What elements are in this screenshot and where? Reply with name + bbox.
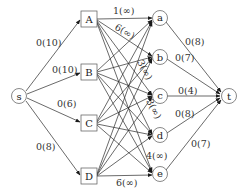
label-D-e: 6(∞): [116, 177, 137, 188]
node-t-label: t: [227, 91, 231, 102]
node-b: b: [153, 50, 168, 65]
middle-edges: [97, 18, 152, 176]
edge-s-D: [26, 101, 80, 175]
label-e-t: 0(7): [191, 138, 211, 149]
svg-text:A: A: [84, 14, 93, 25]
svg-text:a: a: [157, 12, 163, 23]
node-s-label: s: [16, 91, 21, 102]
label-A-a: 1(∞): [113, 5, 134, 16]
label-s-A: 0(10): [36, 37, 62, 48]
svg-text:d: d: [157, 130, 164, 141]
svg-text:B: B: [85, 67, 92, 78]
svg-text:b: b: [157, 52, 163, 63]
label-B-c: 3(∞): [135, 58, 155, 82]
label-a-t: 0(8): [185, 36, 205, 47]
label-s-B: 0(10): [52, 64, 78, 75]
node-s: s: [12, 89, 27, 104]
node-e: e: [153, 167, 168, 182]
node-A: A: [81, 11, 97, 27]
label-to-e: 4(∞): [146, 150, 167, 161]
label-d-t: 0(8): [175, 108, 195, 119]
label-c-t: 0(4): [178, 85, 198, 96]
label-s-C: 0(6): [57, 98, 77, 109]
edge-s-B: [27, 73, 80, 94]
diagram-svg: s t A B C D a b: [0, 0, 243, 191]
node-t: t: [222, 89, 237, 104]
svg-text:D: D: [85, 171, 93, 182]
node-d: d: [153, 128, 168, 143]
node-D: D: [81, 168, 97, 184]
node-B: B: [81, 64, 97, 80]
node-a: a: [153, 11, 168, 26]
label-b-t: 0(7): [175, 52, 195, 63]
node-C: C: [81, 115, 97, 131]
label-s-D: 0(8): [36, 141, 56, 152]
flow-network-diagram: s t A B C D a b: [0, 0, 243, 191]
svg-text:C: C: [85, 118, 93, 129]
svg-text:e: e: [157, 168, 163, 179]
edge-s-A: [26, 20, 80, 91]
svg-text:c: c: [157, 90, 163, 101]
